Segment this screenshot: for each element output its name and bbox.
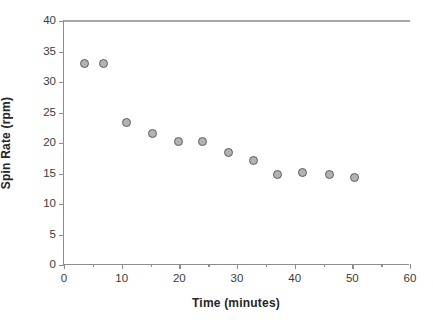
x-axis-tick-label: 30: [231, 273, 244, 285]
data-point: [249, 156, 258, 165]
y-axis-tick: [59, 21, 64, 22]
x-axis-tick-label: 0: [61, 273, 67, 285]
data-point: [174, 137, 183, 146]
y-axis-tick-label: 35: [43, 46, 56, 58]
x-axis-tick-label: 60: [404, 273, 417, 285]
y-axis-tick: [59, 143, 64, 144]
y-axis-tick: [59, 174, 64, 175]
x-axis-tick: [64, 264, 65, 269]
x-axis-tick-label: 50: [346, 273, 359, 285]
y-axis-tick: [59, 113, 64, 114]
scatter-chart: 05101520253035400102030405060 Spin Rate …: [0, 0, 433, 320]
y-axis-tick-label: 25: [43, 107, 56, 119]
data-point: [80, 59, 89, 68]
x-axis-minor-tick: [93, 264, 94, 267]
x-axis-tick-label: 10: [115, 273, 128, 285]
data-point: [148, 129, 157, 138]
y-axis-tick-label: 15: [43, 168, 56, 180]
x-axis-minor-tick: [208, 264, 209, 267]
x-axis-tick-label: 20: [173, 273, 186, 285]
data-point: [325, 170, 334, 179]
y-axis-tick-label: 30: [43, 76, 56, 88]
data-point: [224, 148, 233, 157]
x-axis-tick: [352, 264, 353, 269]
data-point: [273, 170, 282, 179]
x-axis-minor-tick: [381, 264, 382, 267]
y-axis-tick-label: 0: [50, 259, 56, 271]
data-point: [350, 173, 359, 182]
x-axis-minor-tick: [151, 264, 152, 267]
x-axis-tick: [295, 264, 296, 269]
x-axis-tick: [410, 264, 411, 269]
x-axis-minor-tick: [324, 264, 325, 267]
data-point: [122, 118, 131, 127]
y-axis-tick: [59, 235, 64, 236]
y-axis-tick-label: 20: [43, 137, 56, 149]
y-axis-tick-label: 10: [43, 198, 56, 210]
data-point: [198, 137, 207, 146]
plot-area: 05101520253035400102030405060: [63, 21, 409, 265]
x-axis-title: Time (minutes): [192, 296, 280, 310]
data-point: [99, 59, 108, 68]
x-axis-tick: [179, 264, 180, 269]
y-axis-tick-label: 40: [43, 15, 56, 27]
x-axis-tick: [237, 264, 238, 269]
y-axis-tick: [59, 204, 64, 205]
y-axis-tick: [59, 82, 64, 83]
x-axis-tick-label: 40: [288, 273, 301, 285]
y-axis-title: Spin Rate (rpm): [0, 97, 13, 189]
data-point: [298, 168, 307, 177]
y-axis-tick-label: 5: [50, 229, 56, 241]
x-axis-tick: [122, 264, 123, 269]
x-axis-minor-tick: [266, 264, 267, 267]
y-axis-tick: [59, 52, 64, 53]
